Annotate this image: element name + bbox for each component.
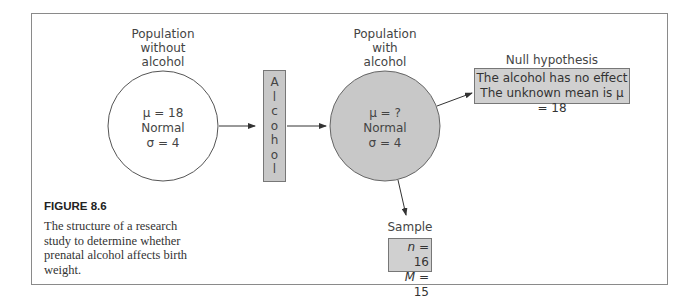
mean-value: μ = ? [345,106,425,121]
mean-value: μ = 18 [123,106,203,121]
sd-value: σ = 4 [123,136,203,151]
n-symbol: n [408,240,416,254]
letter: o [271,119,278,134]
null-hypothesis-line1: The alcohol has no effect [475,71,629,86]
m-symbol: M [405,270,415,284]
null-hypothesis-box: The alcohol has no effect The unknown me… [474,68,630,104]
label-line: alcohol [118,55,208,69]
letter: o [271,148,278,163]
letter: c [271,104,278,119]
figure-title: FIGURE 8.6 [44,200,107,212]
distribution-shape: Normal [345,121,425,136]
n-value: = 16 [414,240,429,269]
null-hypothesis-title: Null hypothesis [474,53,630,67]
population-without-label: Population without alcohol [118,27,208,69]
arrow-to-null-hypothesis [437,93,472,106]
sample-m: M = 15 [389,270,429,299]
sample-title: Sample [380,220,440,234]
label-line: alcohol [340,55,430,69]
population-with-stats: μ = ? Normal σ = 4 [345,106,425,151]
letter: h [271,133,279,148]
sample-n: n = 16 [389,240,429,270]
arrow-to-sample [398,180,406,215]
population-without-stats: μ = 18 Normal σ = 4 [123,106,203,151]
m-value: = 15 [414,270,429,299]
letter: l [273,90,276,105]
alcohol-treatment-box: A l c o h o l [263,70,286,182]
figure-caption: The structure of a research study to det… [44,219,194,277]
population-with-label: Population with alcohol [340,27,430,69]
label-line: Population [118,27,208,41]
label-line: Population [340,27,430,41]
letter: l [273,162,276,177]
sd-value: σ = 4 [345,136,425,151]
sample-box: n = 16 M = 15 [388,238,432,272]
label-line: without [118,41,208,55]
letter: A [270,75,278,90]
distribution-shape: Normal [123,121,203,136]
null-hypothesis-line2: The unknown mean is μ = 18 [475,86,629,116]
label-line: with [340,41,430,55]
